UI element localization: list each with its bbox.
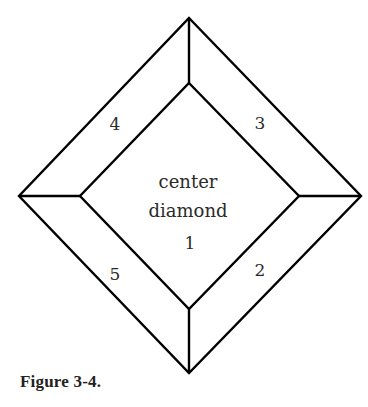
piece-label-2: 2 <box>255 260 266 280</box>
piece-label-1: 1 <box>185 233 196 253</box>
center-label-line2: diamond <box>148 200 227 221</box>
diamond-diagram: center diamond 1 2 3 4 5 <box>0 0 368 407</box>
figure-caption: Figure 3-4. <box>20 372 101 392</box>
piece-label-3: 3 <box>255 113 266 133</box>
piece-label-5: 5 <box>110 264 121 284</box>
piece-label-4: 4 <box>110 114 121 134</box>
center-label-line1: center <box>159 171 218 192</box>
